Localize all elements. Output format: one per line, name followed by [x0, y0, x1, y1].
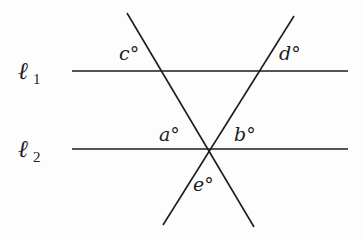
label-l2-name: ℓ	[18, 135, 28, 163]
angle-label-d: d°	[279, 42, 301, 64]
transversal-left	[127, 13, 254, 227]
transversal-right	[163, 16, 294, 225]
angle-label-b: b°	[234, 123, 256, 145]
label-l1-subscript: 1	[33, 71, 41, 87]
geometry-diagram: ℓ 1 ℓ 2 c° d° a° b° e°	[0, 0, 363, 240]
label-l2-subscript: 2	[33, 149, 41, 165]
angle-label-a: a°	[159, 123, 180, 145]
angle-label-c: c°	[119, 42, 139, 64]
label-l1-name: ℓ	[18, 57, 28, 85]
diagram-canvas: ℓ 1 ℓ 2 c° d° a° b° e°	[0, 0, 363, 240]
angle-label-e: e°	[193, 173, 214, 195]
